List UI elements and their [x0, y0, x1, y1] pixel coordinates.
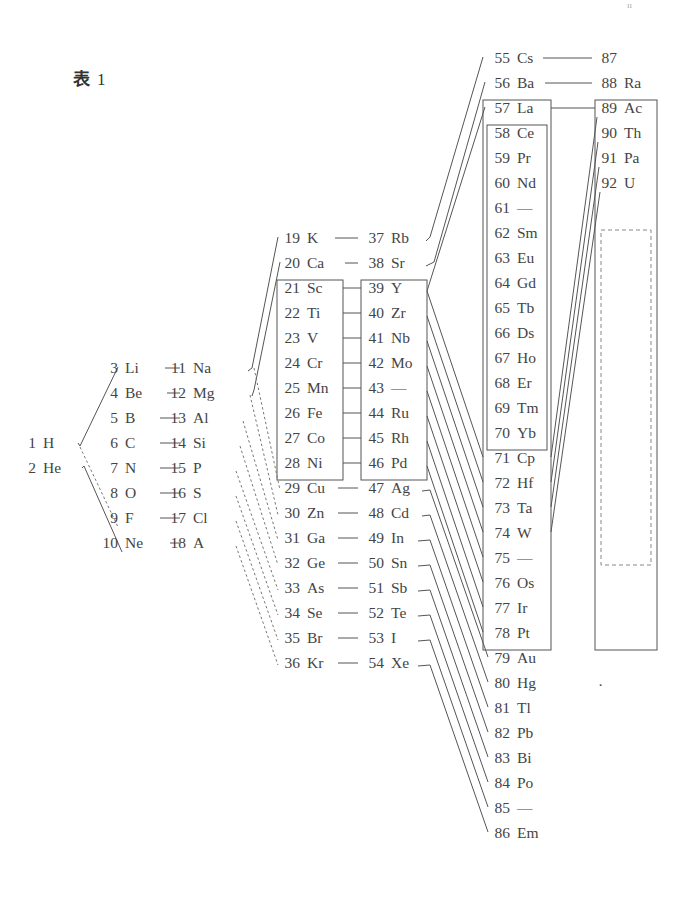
element-number: 25	[285, 379, 301, 396]
element-number: 82	[495, 724, 511, 741]
element-number: 42	[369, 354, 385, 371]
element-number: 43	[369, 379, 385, 396]
element-number: 87	[602, 49, 618, 66]
element-symbol: Rb	[391, 229, 409, 246]
element-symbol: Ta	[517, 499, 532, 516]
element-symbol: S	[193, 484, 202, 501]
element-number: 13	[171, 409, 187, 426]
element-symbol: Mo	[391, 354, 413, 371]
element-number: 26	[285, 404, 301, 421]
element-symbol: Pr	[517, 149, 532, 166]
element-number: 3	[110, 359, 118, 376]
element-labels: 1H2He3Li4Be5B6C7N8O9F10Ne11Na12Mg13Al14S…	[28, 49, 642, 841]
element-number: 88	[602, 74, 618, 91]
element-number: 84	[495, 774, 511, 791]
element-number: 72	[495, 474, 511, 491]
element-number: 89	[602, 99, 618, 116]
element-number: 64	[495, 274, 511, 291]
element-symbol: Pb	[517, 724, 534, 741]
element-symbol: Cs	[517, 49, 533, 66]
element-number: 74	[495, 524, 511, 541]
element-symbol: K	[307, 229, 319, 246]
element-number: 47	[369, 479, 385, 496]
element-symbol: In	[391, 529, 404, 546]
element-symbol: Na	[193, 359, 211, 376]
element-symbol: Te	[391, 604, 406, 621]
element-symbol: Al	[193, 409, 209, 426]
element-number: 71	[495, 449, 511, 466]
element-number: 12	[171, 384, 187, 401]
element-symbol: Ag	[391, 479, 410, 496]
col3-col4-connectors	[236, 237, 280, 665]
element-number: 16	[171, 484, 187, 501]
element-number: 50	[369, 554, 385, 571]
element-symbol: Se	[307, 604, 323, 621]
element-symbol: Sn	[391, 554, 408, 571]
element-number: 33	[285, 579, 301, 596]
element-symbol: Li	[125, 359, 139, 376]
element-symbol: Si	[193, 434, 207, 451]
table-title-char: 表	[73, 69, 91, 89]
element-number: 38	[369, 254, 385, 271]
element-symbol: Ir	[517, 599, 528, 616]
element-symbol: N	[125, 459, 136, 476]
element-symbol: Nb	[391, 329, 410, 346]
element-number: 30	[285, 504, 301, 521]
element-number: 73	[495, 499, 511, 516]
element-number: 62	[495, 224, 511, 241]
element-symbol: Er	[517, 374, 532, 391]
element-number: 1	[28, 434, 36, 451]
element-symbol: Tl	[517, 699, 531, 716]
element-number: 39	[369, 279, 385, 296]
element-number: 34	[285, 604, 301, 621]
element-symbol: Ca	[307, 254, 324, 271]
element-number: 41	[369, 329, 385, 346]
element-symbol: Po	[517, 774, 534, 791]
element-number: 77	[495, 599, 511, 616]
element-symbol: Tm	[517, 399, 539, 416]
element-symbol: Th	[624, 124, 641, 141]
element-number: 90	[602, 124, 618, 141]
element-number: 67	[495, 349, 511, 366]
element-number: 81	[495, 699, 511, 716]
element-symbol: Cu	[307, 479, 325, 496]
element-number: 92	[602, 174, 618, 191]
element-symbol: Em	[517, 824, 539, 841]
element-symbol: Zn	[307, 504, 324, 521]
element-symbol: Sr	[391, 254, 406, 271]
element-symbol: O	[125, 484, 136, 501]
element-number: 22	[285, 304, 301, 321]
element-number: 59	[495, 149, 511, 166]
element-number: 17	[171, 509, 187, 526]
element-number: 31	[285, 529, 301, 546]
element-symbol: Hf	[517, 474, 534, 491]
box-unknown-dashed	[601, 230, 651, 565]
element-symbol: F	[125, 509, 134, 526]
element-number: 76	[495, 574, 511, 591]
element-number: 60	[495, 174, 511, 191]
element-symbol: B	[125, 409, 135, 426]
element-symbol: Br	[307, 629, 323, 646]
element-symbol: Zr	[391, 304, 406, 321]
element-symbol: La	[517, 99, 533, 116]
element-symbol: Eu	[517, 249, 534, 266]
element-symbol: Hg	[517, 674, 536, 691]
element-number: 51	[369, 579, 385, 596]
element-number: 49	[369, 529, 385, 546]
element-symbol: Os	[517, 574, 534, 591]
element-symbol: Pa	[624, 149, 640, 166]
element-number: 83	[495, 749, 511, 766]
element-number: 56	[495, 74, 511, 91]
element-symbol: Cp	[517, 449, 535, 466]
element-number: 5	[110, 409, 118, 426]
periodic-table-diagram: 表 1 ıı ·	[0, 0, 697, 906]
element-symbol: P	[193, 459, 202, 476]
element-number: 28	[285, 454, 301, 471]
element-number: 35	[285, 629, 301, 646]
element-number: 8	[110, 484, 118, 501]
element-symbol: —	[516, 549, 533, 566]
element-symbol: I	[391, 629, 396, 646]
la-ac-connectors	[551, 117, 600, 532]
element-number: 75	[495, 549, 511, 566]
element-number: 2	[28, 459, 36, 476]
